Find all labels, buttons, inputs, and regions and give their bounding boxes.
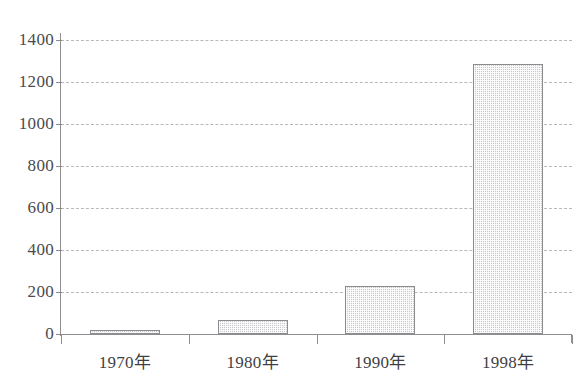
bar-1998年 bbox=[473, 64, 543, 334]
y-tick-1000 bbox=[56, 124, 62, 125]
x-tick-4 bbox=[572, 335, 573, 344]
x-axis-label-1970年: 1970年 bbox=[99, 348, 152, 373]
x-tick-1 bbox=[189, 335, 190, 344]
x-axis-label-1990年: 1990年 bbox=[354, 348, 407, 373]
y-tick-800 bbox=[56, 166, 62, 167]
y-axis-label-600: 600 bbox=[2, 198, 54, 218]
y-axis-label-400: 400 bbox=[2, 240, 54, 260]
gridline-1400 bbox=[61, 40, 572, 41]
y-tick-1400 bbox=[56, 40, 62, 41]
y-tick-1200 bbox=[56, 82, 62, 83]
y-axis-label-800: 800 bbox=[2, 156, 54, 176]
chart-page: 0200400600800100012001400 1970年1980年1990… bbox=[0, 0, 581, 382]
x-axis-label-1998年: 1998年 bbox=[482, 348, 535, 373]
y-axis-label-200: 200 bbox=[2, 282, 54, 302]
x-tick-2 bbox=[317, 335, 318, 344]
x-axis-label-1980年: 1980年 bbox=[226, 348, 279, 373]
x-tick-3 bbox=[444, 335, 445, 344]
y-tick-400 bbox=[56, 250, 62, 251]
y-axis-label-0: 0 bbox=[2, 324, 54, 344]
clipped-header-text bbox=[14, 0, 314, 3]
x-tick-0 bbox=[61, 335, 62, 344]
plot-area bbox=[61, 40, 572, 334]
bar-1990年 bbox=[345, 286, 415, 334]
y-axis-label-1000: 1000 bbox=[2, 114, 54, 134]
bar-1980年 bbox=[218, 320, 288, 334]
y-axis-label-1200: 1200 bbox=[2, 72, 54, 92]
bar-1970年 bbox=[90, 330, 160, 334]
y-axis-label-1400: 1400 bbox=[2, 30, 54, 50]
y-tick-600 bbox=[56, 208, 62, 209]
y-tick-200 bbox=[56, 292, 62, 293]
